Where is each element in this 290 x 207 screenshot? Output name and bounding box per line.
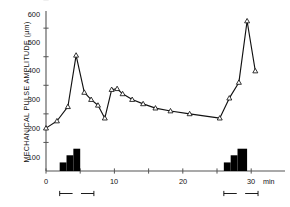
stimulus-bar-step <box>231 155 238 171</box>
axes <box>43 0 285 174</box>
data-point-marker <box>245 18 250 22</box>
stimulus-bar-step <box>67 155 74 171</box>
data-point-marker <box>115 86 120 90</box>
data-point-marker <box>65 104 70 108</box>
data-point-marker <box>236 80 241 84</box>
data-point-marker <box>82 90 87 94</box>
data-line <box>46 21 255 128</box>
data-point-marker <box>102 116 107 120</box>
span-label-backdrop <box>237 189 245 197</box>
data-point-marker <box>74 53 79 57</box>
span-markers <box>60 189 258 197</box>
chart-figure: MECHANICAL PULSE AMPLITUDE (µm) 600 500 … <box>0 0 290 207</box>
data-point-marker <box>253 68 258 72</box>
stimulus-bar-step <box>224 162 231 171</box>
stimulus-bars <box>60 149 247 171</box>
data-point-marker <box>44 126 49 130</box>
stimulus-bar-step <box>60 162 67 171</box>
data-markers <box>44 18 258 130</box>
stimulus-bar-step <box>73 149 80 171</box>
series-polyline <box>46 21 255 128</box>
stimulus-bar-step <box>238 149 248 171</box>
span-label-backdrop <box>73 189 81 197</box>
plot-area <box>0 0 290 207</box>
data-point-marker <box>130 97 135 101</box>
